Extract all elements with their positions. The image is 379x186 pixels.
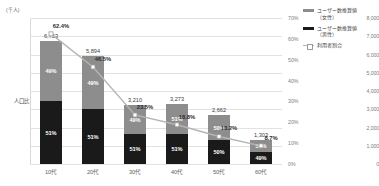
y-axis-tick-label: 4,000	[351, 88, 379, 94]
y-axis-tick-label: 3,000	[351, 106, 379, 112]
line-value-label: 46.5%	[83, 56, 123, 62]
x-axis-tick-label: 30代	[113, 168, 157, 176]
secondary-y-axis-tick-label: 50%	[288, 57, 314, 63]
legend-swatch-male-icon	[303, 27, 314, 30]
legend-label-female: ユーザー数推算値 （女性）	[317, 7, 357, 21]
line-value-label: 8.7%	[251, 135, 291, 141]
legend-line-marker-icon	[303, 43, 314, 48]
line-value-label: 18.8%	[167, 114, 207, 120]
y-axis-tick-label: 1,000	[351, 143, 379, 149]
legend: ユーザー数推算値 （女性） ユーザー数推算値 （男性） 利用者割合	[303, 7, 379, 53]
legend-label-male-sub: （男性）	[317, 31, 357, 38]
legend-swatch-female-icon	[303, 9, 314, 12]
line-data-point[interactable]	[133, 113, 137, 117]
x-axis-tick-label: 40代	[155, 168, 199, 176]
line-value-label: 23.5%	[125, 104, 165, 110]
line-value-label: 13.2%	[209, 125, 249, 131]
legend-label-female-sub: （女性）	[317, 14, 357, 21]
annotation-population-ratio: 人口比	[14, 97, 29, 105]
line-data-point[interactable]	[175, 123, 179, 127]
line-data-point[interactable]	[49, 32, 53, 36]
line-data-point[interactable]	[217, 134, 221, 138]
line-data-point[interactable]	[91, 65, 95, 69]
line-data-point[interactable]	[259, 144, 263, 148]
legend-item-male: ユーザー数推算値 （男性）	[303, 25, 379, 39]
line-value-label: 62.4%	[41, 23, 81, 29]
y-axis-tick-label: 5,000	[351, 70, 379, 76]
legend-label-male: ユーザー数推算値 （男性）	[317, 25, 357, 39]
y-axis-tick-label: 2,000	[351, 125, 379, 131]
secondary-y-axis-tick-label: 40%	[288, 78, 314, 84]
secondary-y-axis-tick-label: 30%	[288, 98, 314, 104]
x-axis-tick-label: 20代	[71, 168, 115, 176]
y-axis-tick-label: 0	[351, 161, 379, 167]
secondary-y-axis-tick-label: 20%	[288, 119, 314, 125]
x-axis-tick-label: 60代	[239, 168, 283, 176]
x-axis-tick-label: 10代	[29, 168, 73, 176]
legend-label-usage-rate: 利用者割合	[317, 42, 342, 49]
chart-root: (千人) 49%51%6,75349%51%5,89449%51%3,21051…	[0, 0, 379, 186]
legend-item-female: ユーザー数推算値 （女性）	[303, 7, 379, 21]
line-series-layer	[30, 18, 282, 164]
secondary-y-axis-tick-label: 10%	[288, 140, 314, 146]
legend-label-usage-rate-main: 利用者割合	[317, 42, 342, 48]
gridline	[30, 164, 282, 165]
secondary-y-axis-tick-label: 0%	[288, 161, 314, 167]
x-axis-tick-label: 50代	[197, 168, 241, 176]
legend-label-female-main: ユーザー数推算値	[317, 7, 357, 13]
y-axis-unit-label: (千人)	[6, 6, 19, 13]
legend-label-male-main: ユーザー数推算値	[317, 25, 357, 31]
legend-item-usage-rate: 利用者割合	[303, 42, 379, 49]
plot-area: 49%51%6,75349%51%5,89449%51%3,21051%51%3…	[30, 18, 282, 164]
